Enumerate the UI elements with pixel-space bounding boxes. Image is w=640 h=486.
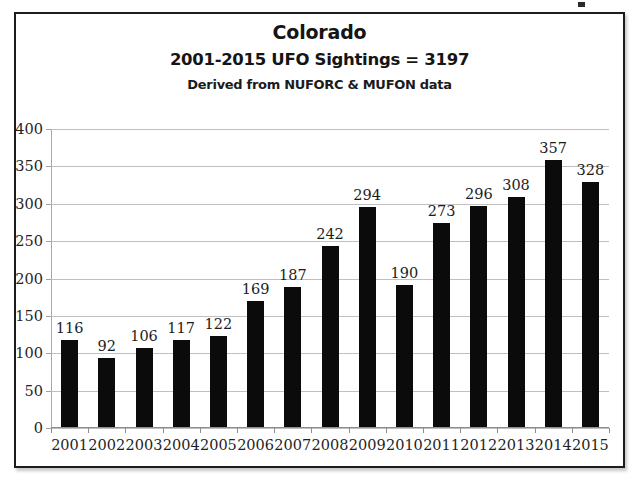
x-axis-tick	[125, 428, 126, 433]
x-axis-tick	[349, 428, 350, 433]
bar-value-label: 308	[502, 177, 530, 193]
bar-value-label: 273	[428, 203, 456, 219]
bar-value-label: 187	[279, 267, 307, 283]
y-axis-tick	[46, 129, 51, 130]
chart-source-note: Derived from NUFORC & MUFON data	[16, 75, 623, 95]
bar	[582, 182, 599, 427]
y-axis-tick	[46, 204, 51, 205]
gridline	[51, 204, 609, 205]
x-axis-tick	[497, 428, 498, 433]
bar	[173, 340, 190, 427]
bar-value-label: 117	[167, 320, 195, 336]
y-axis-tick	[46, 166, 51, 167]
x-axis-label: 2004	[163, 437, 200, 453]
x-axis-label: 2010	[386, 437, 423, 453]
y-axis-tick	[46, 241, 51, 242]
bar	[136, 348, 153, 427]
x-axis-label: 2013	[498, 437, 535, 453]
x-axis-label: 2005	[200, 437, 237, 453]
bar	[545, 160, 562, 427]
x-axis-tick	[609, 428, 610, 433]
y-axis-label: 200	[15, 271, 43, 287]
x-axis-tick	[423, 428, 424, 433]
y-axis-label: 350	[15, 158, 43, 174]
bar-value-label: 242	[316, 226, 344, 242]
bar	[284, 287, 301, 427]
gridline	[51, 166, 609, 167]
x-axis-label: 2006	[237, 437, 274, 453]
x-axis-label: 2007	[274, 437, 311, 453]
bar-value-label: 296	[465, 186, 493, 202]
bar	[322, 246, 339, 427]
bar-value-label: 122	[205, 316, 233, 332]
bar-value-label: 328	[577, 162, 605, 178]
chart-title: Colorado	[16, 20, 623, 44]
bar	[210, 336, 227, 427]
x-axis-label: 2001	[51, 437, 88, 453]
y-axis-label: 50	[25, 383, 43, 399]
plot-area: 050100150200250300350400 200120022003200…	[51, 129, 609, 428]
chart-frame: Colorado 2001-2015 UFO Sightings = 3197 …	[14, 12, 625, 468]
x-axis-tick	[386, 428, 387, 433]
y-axis-label: 250	[15, 233, 43, 249]
x-axis-label: 2002	[88, 437, 125, 453]
bar-value-label: 357	[539, 140, 567, 156]
bar-value-label: 169	[242, 281, 270, 297]
x-axis-label: 2015	[572, 437, 609, 453]
bar	[247, 301, 264, 427]
y-axis-tick	[46, 316, 51, 317]
bar-value-label: 116	[56, 320, 84, 336]
x-axis-label: 2011	[423, 437, 460, 453]
x-axis-tick	[88, 428, 89, 433]
gridline	[51, 129, 609, 130]
x-axis-tick	[311, 428, 312, 433]
y-axis-label: 0	[34, 420, 43, 436]
y-axis-tick	[46, 391, 51, 392]
x-axis-tick	[163, 428, 164, 433]
x-axis-tick	[535, 428, 536, 433]
x-axis-label: 2014	[535, 437, 572, 453]
x-axis-label: 2003	[126, 437, 163, 453]
bar	[359, 207, 376, 427]
bar-value-label: 92	[98, 338, 116, 354]
bar	[396, 285, 413, 427]
y-axis-label: 150	[15, 308, 43, 324]
chart-subtitle: 2001-2015 UFO Sightings = 3197	[16, 47, 623, 72]
x-axis-tick	[274, 428, 275, 433]
title-block: Colorado 2001-2015 UFO Sightings = 3197 …	[16, 20, 623, 95]
y-axis-tick	[46, 353, 51, 354]
bar	[470, 206, 487, 427]
y-axis-label: 400	[15, 121, 43, 137]
bar-value-label: 294	[353, 187, 381, 203]
bar-value-label: 106	[130, 328, 158, 344]
gridline	[51, 428, 609, 429]
y-axis-label: 100	[15, 345, 43, 361]
x-axis-label: 2012	[460, 437, 497, 453]
bar	[61, 340, 78, 427]
x-axis-tick	[460, 428, 461, 433]
x-axis-label: 2009	[349, 437, 386, 453]
x-axis-tick	[51, 428, 52, 433]
x-axis-tick	[200, 428, 201, 433]
y-axis-label: 300	[15, 196, 43, 212]
bar	[98, 358, 115, 427]
bar	[433, 223, 450, 427]
bar	[508, 197, 525, 427]
y-axis-tick	[46, 279, 51, 280]
x-axis-tick	[237, 428, 238, 433]
x-axis-label: 2008	[312, 437, 349, 453]
x-axis-tick	[572, 428, 573, 433]
top-edge-artifact	[578, 2, 585, 7]
bar-value-label: 190	[391, 265, 419, 281]
